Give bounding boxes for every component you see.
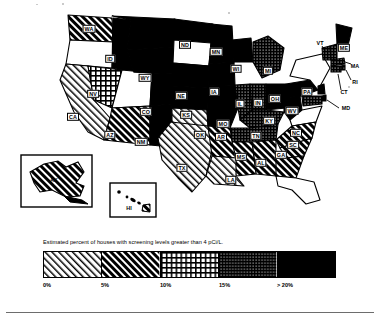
state-label: MS xyxy=(235,153,247,161)
legend-tick: 15% xyxy=(219,282,230,288)
state-label: OK xyxy=(194,131,206,139)
state-label: ID xyxy=(105,55,115,63)
state-label: NE xyxy=(175,92,187,100)
swatch-pattern-bold-diagonal-hatch xyxy=(102,252,159,277)
state-label: WV xyxy=(286,107,299,115)
state-wy xyxy=(127,47,174,74)
hawaii-islands xyxy=(117,190,141,205)
state-label: TN xyxy=(250,132,261,140)
legend-tick: > 20% xyxy=(277,282,293,288)
state-label: LA xyxy=(225,176,236,184)
state-label: CA xyxy=(67,113,79,121)
state-label: IL xyxy=(236,100,245,108)
legend-gradient-bar xyxy=(43,251,336,278)
legend-tick: 5% xyxy=(101,282,109,288)
state-label-external: ME xyxy=(338,44,350,52)
state-ne xyxy=(172,63,209,88)
state-ct xyxy=(331,66,341,72)
swatch-pattern-dense-dark-crosshatch xyxy=(219,252,276,277)
state-md xyxy=(302,96,322,106)
state-label: MO xyxy=(217,120,230,128)
state-label: AL xyxy=(255,159,266,167)
state-label-external: MA xyxy=(351,63,359,69)
state-label-external: RI xyxy=(352,79,357,85)
legend-swatch-3 xyxy=(219,252,277,277)
state-label: ND xyxy=(179,41,191,49)
state-label: AZ xyxy=(104,131,115,139)
state-label-external: MD xyxy=(342,105,350,111)
state-label: MI xyxy=(263,67,273,75)
state-label-external: CT xyxy=(340,89,347,95)
inset-label-hawaii: HI xyxy=(126,205,131,211)
state-label: WA xyxy=(83,25,96,33)
legend-swatch-2 xyxy=(161,252,219,277)
scan-speck xyxy=(228,12,230,14)
state-mn xyxy=(209,24,234,64)
legend-tick-labels: 0% 5% 10% 15% > 20% xyxy=(43,282,336,294)
state-label: NM xyxy=(135,138,148,146)
state-label: SC xyxy=(287,141,299,149)
state-ri xyxy=(341,65,345,70)
alaska-tail xyxy=(64,196,88,204)
state-label: NC xyxy=(290,129,302,137)
state-label: KY xyxy=(263,117,275,125)
map-legend: Estimated percent of houses with screeni… xyxy=(0,234,380,304)
state-label: IN xyxy=(253,99,263,107)
state-label: GA xyxy=(275,151,287,159)
state-label: KS xyxy=(180,111,192,119)
state-label: WI xyxy=(231,65,242,73)
us-radon-map: WA ID NV CA AZ NM CO WY ND MN NE KS IA W… xyxy=(0,0,380,232)
hawaii-big-island xyxy=(142,204,150,212)
swatch-pattern-light-diagonal-hatch xyxy=(44,252,101,277)
page-bottom-rule xyxy=(6,312,374,313)
radon-map-page: WA ID NV CA AZ NM CO WY ND MN NE KS IA W… xyxy=(0,0,380,322)
state-label: PA xyxy=(301,88,312,96)
scan-speck xyxy=(36,4,38,5)
legend-swatch-1 xyxy=(102,252,160,277)
state-nh xyxy=(330,44,337,60)
scan-speck xyxy=(348,86,350,88)
state-label: AR xyxy=(215,133,227,141)
state-label: NV xyxy=(87,90,99,98)
state-label: OH xyxy=(269,95,281,103)
state-label: CO xyxy=(140,108,152,116)
state-label: TX xyxy=(176,164,187,172)
state-nd xyxy=(174,19,213,43)
legend-tick: 10% xyxy=(160,282,171,288)
state-label: IA xyxy=(209,88,219,96)
state-ma xyxy=(331,58,345,66)
legend-swatch-4 xyxy=(278,252,335,277)
state-wi xyxy=(232,38,253,62)
state-label: MN xyxy=(210,48,223,56)
scan-speck xyxy=(62,3,64,5)
state-me xyxy=(336,24,352,46)
state-fl xyxy=(276,176,320,204)
swatch-pattern-open-crosshatch-grid xyxy=(161,252,218,277)
state-nj xyxy=(318,84,325,94)
state-de xyxy=(322,95,326,101)
legend-caption: Estimated percent of houses with screeni… xyxy=(43,239,223,245)
state-label-external: VT xyxy=(317,40,324,46)
state-label: WY xyxy=(139,74,152,82)
legend-swatch-0 xyxy=(44,252,102,277)
legend-tick: 0% xyxy=(43,282,51,288)
inset-label-alaska: AK xyxy=(50,177,58,183)
